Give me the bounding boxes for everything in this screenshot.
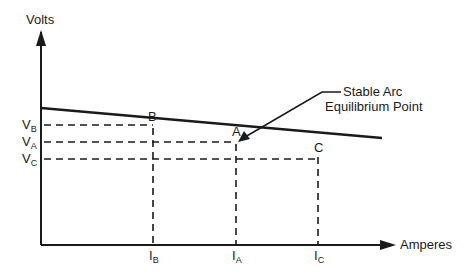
- y-axis-label: Volts: [26, 12, 55, 27]
- annotation-line-2: Equilibrium Point: [325, 99, 423, 114]
- ib-label: IB: [149, 248, 159, 265]
- ic-label: IC: [314, 248, 325, 265]
- annotation-line-1: Stable Arc: [343, 84, 403, 99]
- vb-label: VB: [22, 117, 37, 134]
- x-axis-label: Amperes: [400, 237, 453, 252]
- va-label: VA: [22, 134, 37, 151]
- volt-ampere-diagram: Volts Amperes B A C VB VA VC IB IA IC St…: [0, 0, 470, 274]
- point-c-label: C: [314, 140, 323, 155]
- vc-label: VC: [22, 151, 38, 168]
- ia-label: IA: [232, 248, 242, 265]
- point-a-label: A: [232, 124, 241, 139]
- point-b-label: B: [148, 109, 157, 124]
- x-axis-arrow-icon: [380, 240, 396, 250]
- y-axis-arrow-icon: [36, 30, 46, 46]
